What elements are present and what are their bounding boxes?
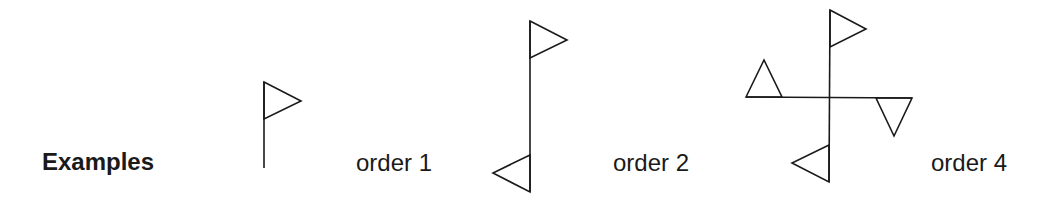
order-2-label: order 2 xyxy=(613,151,689,175)
order-4-figure xyxy=(746,10,912,182)
flag-triangle-bottom xyxy=(792,145,829,182)
flag-triangle-right xyxy=(264,82,301,119)
order-2-figure xyxy=(493,21,567,192)
order-4-label: order 4 xyxy=(931,151,1007,175)
flag-triangle-left xyxy=(746,60,782,97)
flag-triangle-bottom xyxy=(493,155,530,192)
order-1-figure xyxy=(264,82,301,168)
flag-figures xyxy=(0,0,1046,197)
order-1-label: order 1 xyxy=(356,151,432,175)
flag-triangle-top xyxy=(530,21,567,58)
flag-triangle-top xyxy=(830,10,866,47)
flag-triangle-right xyxy=(876,98,912,136)
